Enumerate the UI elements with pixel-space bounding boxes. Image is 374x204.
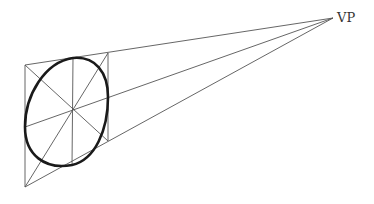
vertical-center-line	[72, 58, 73, 165]
perspective-diagram: VP	[0, 0, 374, 204]
bottom-edge-to-vp	[25, 18, 333, 187]
diagonal-top-left-to-bottom-right	[25, 65, 108, 141]
vp-label: VP	[336, 10, 355, 25]
center-line-to-vp	[25, 18, 333, 127]
